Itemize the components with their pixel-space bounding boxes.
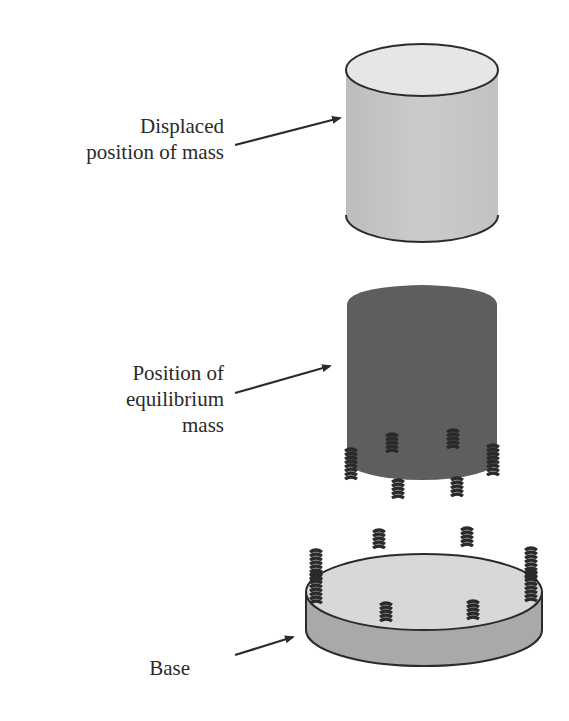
equilibrium-mass-cylinder (347, 285, 497, 480)
displaced-arrow (235, 118, 340, 145)
spring-mass-diagram (0, 0, 569, 721)
equilibrium-arrow (235, 366, 330, 393)
base-disc (306, 554, 542, 666)
displaced-mass-cylinder (346, 44, 498, 242)
base-arrow (235, 637, 293, 655)
